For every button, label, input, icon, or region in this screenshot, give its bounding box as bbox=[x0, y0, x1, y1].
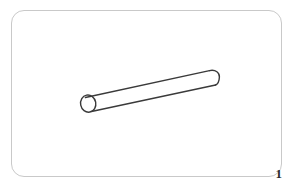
figure-card bbox=[11, 10, 282, 177]
figure-number-label: 1 bbox=[276, 167, 283, 180]
